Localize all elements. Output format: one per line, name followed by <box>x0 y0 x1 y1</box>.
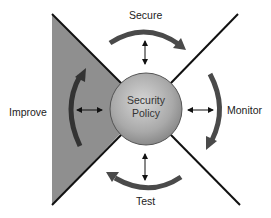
diagonal-line-bottom-right <box>170 134 240 205</box>
secure-curved-arrow-icon <box>110 32 186 50</box>
improve-label: Improve <box>9 106 47 118</box>
center-label-line1: Security <box>110 94 182 107</box>
security-policy-label: Security Policy <box>110 94 182 120</box>
secure-label: Secure <box>129 9 162 21</box>
test-label: Test <box>136 195 155 207</box>
center-label-line2: Policy <box>110 107 182 120</box>
monitor-label: Monitor <box>227 104 262 116</box>
test-curved-arrow-icon <box>106 172 181 188</box>
monitor-curved-arrow-icon <box>206 74 220 150</box>
